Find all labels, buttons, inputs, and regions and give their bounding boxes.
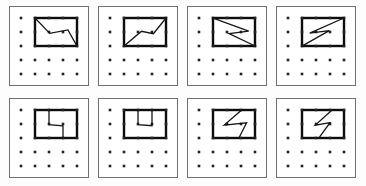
panel-grid	[9, 6, 358, 178]
grid-dot	[48, 165, 51, 168]
grid-dot	[287, 31, 290, 34]
grid-dot	[343, 137, 346, 140]
grid-dot	[76, 151, 79, 154]
grid-dot	[137, 73, 140, 76]
grid-dot	[315, 45, 318, 48]
grid-dot	[76, 31, 79, 34]
grid-dot	[240, 17, 243, 20]
figure-canvas	[0, 0, 366, 186]
grid-dot	[48, 151, 51, 154]
grid-dot	[165, 109, 168, 112]
grid-dot	[301, 165, 304, 168]
grid-dot	[198, 59, 201, 62]
grid-dot	[165, 151, 168, 154]
panel-3	[187, 6, 267, 86]
grid-dot	[123, 59, 126, 62]
grid-dot	[240, 73, 243, 76]
grid-dot	[62, 59, 65, 62]
grid-dot	[240, 59, 243, 62]
grid-dot	[226, 151, 229, 154]
grid-dot	[329, 59, 332, 62]
grid-dot	[62, 109, 65, 112]
grid-dot	[76, 137, 79, 140]
grid-dot	[329, 45, 332, 48]
grid-dot	[301, 31, 304, 34]
grid-dot	[254, 17, 257, 20]
grid-dot	[287, 151, 290, 154]
grid-dot	[343, 151, 346, 154]
grid-dot	[109, 17, 112, 20]
grid-dot	[343, 123, 346, 126]
grid-dot	[109, 73, 112, 76]
grid-dot	[226, 59, 229, 62]
grid-dot	[212, 45, 215, 48]
grid-dot	[254, 137, 257, 140]
grid-dot	[34, 73, 37, 76]
grid-dot	[62, 123, 65, 126]
grid-dot	[109, 31, 112, 34]
grid-dot	[137, 45, 140, 48]
grid-dot	[34, 151, 37, 154]
grid-dot	[254, 59, 257, 62]
grid-dot	[315, 137, 318, 140]
grid-dot	[151, 59, 154, 62]
grid-dot	[287, 45, 290, 48]
grid-dot	[198, 109, 201, 112]
grid-dot	[212, 59, 215, 62]
panel-2	[98, 6, 178, 86]
grid-dot	[62, 151, 65, 154]
grid-dot	[315, 73, 318, 76]
grid-dot	[151, 151, 154, 154]
grid-dot	[137, 17, 140, 20]
grid-dot	[34, 165, 37, 168]
grid-dot	[109, 45, 112, 48]
grid-dot	[62, 73, 65, 76]
grid-dot	[301, 137, 304, 140]
grid-dot	[76, 123, 79, 126]
grid-dot	[240, 151, 243, 154]
grid-dot	[62, 165, 65, 168]
grid-dot	[254, 165, 257, 168]
grid-dot	[123, 109, 126, 112]
grid-dot	[123, 137, 126, 140]
grid-dot	[76, 73, 79, 76]
grid-dot	[198, 151, 201, 154]
grid-dot	[48, 45, 51, 48]
grid-dot	[226, 73, 229, 76]
grid-dot	[165, 59, 168, 62]
grid-dot	[212, 123, 215, 126]
grid-dot	[76, 17, 79, 20]
panel-7	[187, 98, 267, 178]
grid-dot	[198, 165, 201, 168]
grid-dot	[301, 17, 304, 20]
grid-dot	[343, 73, 346, 76]
grid-dot	[34, 123, 37, 126]
grid-dot	[343, 59, 346, 62]
grid-dot	[48, 73, 51, 76]
grid-dot	[165, 45, 168, 48]
grid-dot	[315, 17, 318, 20]
grid-dot	[123, 165, 126, 168]
grid-dot	[198, 73, 201, 76]
grid-dot	[20, 73, 23, 76]
grid-dot	[109, 123, 112, 126]
grid-dot	[226, 109, 229, 112]
grid-dot	[123, 123, 126, 126]
grid-dot	[212, 151, 215, 154]
grid-dot	[123, 31, 126, 34]
panel-4	[276, 6, 356, 86]
grid-dot	[20, 123, 23, 126]
grid-dot	[226, 165, 229, 168]
grid-dot	[165, 31, 168, 34]
grid-dot	[34, 45, 37, 48]
grid-dot	[329, 151, 332, 154]
grid-dot	[137, 59, 140, 62]
grid-dot	[287, 109, 290, 112]
grid-dot	[151, 73, 154, 76]
grid-dot	[212, 165, 215, 168]
grid-dot	[34, 59, 37, 62]
grid-dot	[34, 31, 37, 34]
grid-dot	[198, 123, 201, 126]
grid-dot	[301, 151, 304, 154]
grid-dot	[20, 151, 23, 154]
